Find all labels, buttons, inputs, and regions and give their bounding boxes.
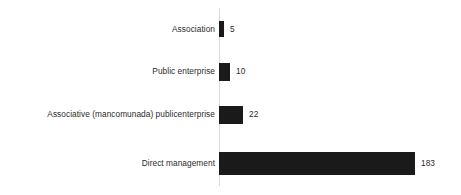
bar-associative-public-enterprise	[219, 106, 243, 124]
category-label: Associative (mancomunada) publicenterpri…	[47, 110, 215, 118]
bar-public-enterprise	[219, 63, 230, 81]
bar-direct-management	[219, 152, 415, 175]
bar-value-label: 5	[230, 25, 235, 33]
bar-value-label: 10	[236, 67, 245, 75]
bar-value-label: 183	[421, 159, 435, 167]
category-label: Association	[172, 25, 215, 33]
category-label: Public enterprise	[152, 67, 215, 75]
category-label: Direct management	[142, 159, 215, 167]
bar-value-label: 22	[249, 110, 258, 118]
bar-chart: Association 5 Public enterprise 10 Assoc…	[0, 0, 461, 195]
bar-association	[219, 21, 224, 37]
